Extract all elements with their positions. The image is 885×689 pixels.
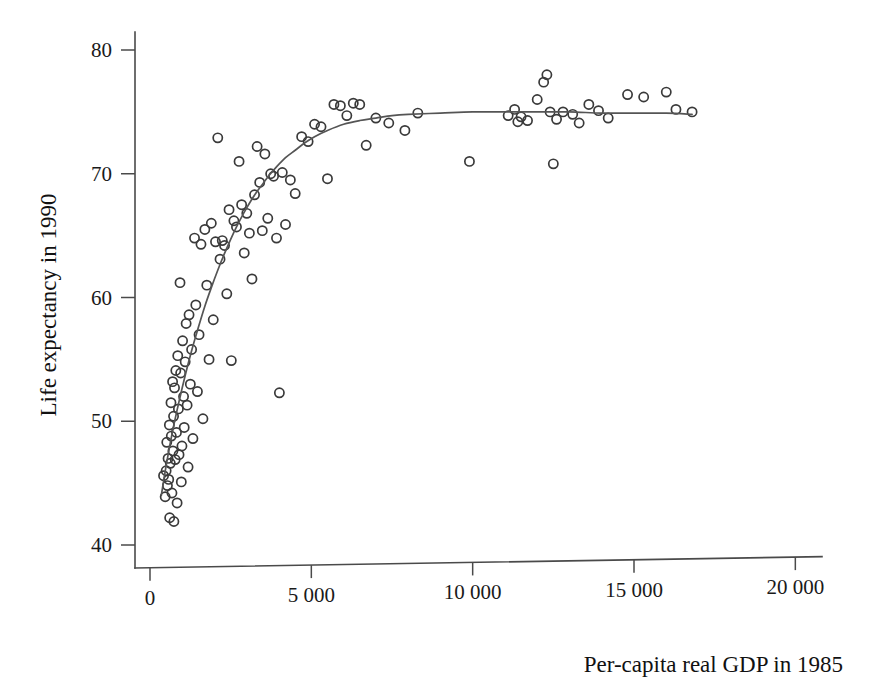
data-point: [209, 315, 218, 324]
data-point: [291, 189, 300, 198]
data-point: [213, 133, 222, 142]
data-point: [260, 149, 269, 158]
data-point: [180, 423, 189, 432]
data-point: [182, 319, 191, 328]
data-point: [362, 141, 371, 150]
data-point: [278, 168, 287, 177]
data-point: [297, 132, 306, 141]
y-tick-label: 70: [91, 162, 112, 186]
data-point: [191, 300, 200, 309]
y-tick-label: 80: [91, 38, 112, 62]
data-point: [183, 401, 192, 410]
x-tick-label: 15 000: [605, 578, 663, 602]
data-point: [275, 388, 284, 397]
data-point: [342, 111, 351, 120]
data-point: [177, 477, 186, 486]
data-point: [549, 159, 558, 168]
data-point: [253, 142, 262, 151]
data-point: [336, 101, 345, 110]
x-tick-label: 0: [145, 586, 156, 610]
data-point: [584, 100, 593, 109]
data-point: [263, 214, 272, 223]
data-point: [247, 274, 256, 283]
x-tick-label: 20 000: [766, 575, 824, 599]
data-point: [281, 220, 290, 229]
data-point: [204, 355, 213, 364]
data-point: [258, 226, 267, 235]
data-point: [355, 100, 364, 109]
data-point: [272, 234, 281, 243]
data-point: [604, 113, 613, 122]
x-axis-line: [135, 557, 822, 568]
data-point: [184, 310, 193, 319]
data-point: [237, 200, 246, 209]
data-point: [465, 157, 474, 166]
data-point: [400, 126, 409, 135]
data-point: [227, 356, 236, 365]
data-point: [198, 414, 207, 423]
data-points-group: [159, 70, 697, 526]
data-point: [234, 157, 243, 166]
scatter-plot: 4050607080 05 00010 00015 00020 000 Per-…: [0, 0, 885, 689]
x-tick-label: 5 000: [288, 583, 335, 607]
y-tick-label: 60: [91, 286, 112, 310]
data-point: [245, 229, 254, 238]
x-axis-ticks: 05 00010 00015 00020 000: [145, 557, 824, 610]
fit-curve: [161, 112, 692, 496]
y-tick-label: 50: [91, 409, 112, 433]
data-point: [623, 90, 632, 99]
data-point: [323, 174, 332, 183]
data-point: [170, 383, 179, 392]
data-point: [193, 387, 202, 396]
data-point: [186, 380, 195, 389]
y-tick-label: 40: [91, 533, 112, 557]
y-axis-ticks: 4050607080: [91, 38, 135, 557]
data-point: [533, 95, 542, 104]
data-point: [222, 289, 231, 298]
data-point: [175, 278, 184, 287]
data-point: [384, 118, 393, 127]
data-point: [177, 441, 186, 450]
x-tick-label: 10 000: [444, 580, 502, 604]
data-point: [207, 219, 216, 228]
data-point: [224, 205, 233, 214]
data-point: [183, 462, 192, 471]
data-point: [575, 118, 584, 127]
data-point: [639, 92, 648, 101]
data-point: [173, 498, 182, 507]
data-point: [178, 336, 187, 345]
data-point: [662, 87, 671, 96]
data-point: [188, 434, 197, 443]
data-point: [202, 281, 211, 290]
y-axis-title: Life expectancy in 1990: [36, 194, 61, 417]
x-axis-title: Per-capita real GDP in 1985: [584, 652, 843, 677]
data-point: [196, 240, 205, 249]
data-point: [168, 377, 177, 386]
data-point: [286, 175, 295, 184]
data-point: [240, 248, 249, 257]
figure-container: 4050607080 05 00010 00015 00020 000 Per-…: [0, 0, 885, 689]
